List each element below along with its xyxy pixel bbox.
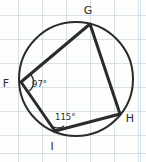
angle-measure-f: 97° bbox=[32, 79, 47, 89]
inscribed-quadrilateral-diagram: G H I F 97° 115° bbox=[0, 0, 146, 162]
vertex-label-i: I bbox=[50, 140, 53, 153]
vertex-label-g: G bbox=[84, 4, 93, 17]
vertex-label-h: H bbox=[126, 112, 134, 125]
geometry-figure-canvas: G H I F 97° 115° bbox=[0, 0, 146, 162]
angle-measure-i: 115° bbox=[55, 112, 75, 122]
vertex-label-f: F bbox=[3, 77, 9, 90]
